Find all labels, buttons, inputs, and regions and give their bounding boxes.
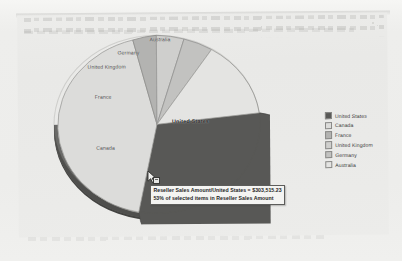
legend-item-germany[interactable]: Germany (325, 150, 389, 160)
legend-swatch-australia (325, 161, 332, 168)
legend-label-canada: Canada (335, 122, 353, 128)
slice-label-australia: Australia (149, 36, 170, 42)
slice-label-france: France (95, 94, 112, 100)
legend-swatch-canada (325, 122, 332, 129)
legend-label-united-kingdom: United Kingdom (335, 142, 373, 148)
tooltip-percent-line: 53% of selected items in Reseller Sales … (153, 195, 281, 202)
tooltip-value-line: Reseller Sales Amount/United States = $3… (153, 187, 281, 194)
drag-indicator-icon (153, 177, 160, 184)
legend-item-canada[interactable]: Canada (325, 120, 389, 130)
legend-swatch-united-kingdom (325, 141, 332, 148)
legend-label-united-states: United States (335, 112, 367, 118)
data-tooltip: Reseller Sales Amount/United States = $3… (150, 185, 285, 205)
legend-item-united-states[interactable]: United States (325, 111, 389, 121)
chart-legend[interactable]: United States Canada France United Kingd… (325, 111, 389, 170)
legend-item-united-kingdom[interactable]: United Kingdom (325, 140, 389, 150)
slice-label-germany: Germany (117, 49, 139, 55)
legend-label-france: France (335, 132, 352, 138)
legend-swatch-germany (325, 151, 332, 158)
legend-item-france[interactable]: France (325, 130, 389, 140)
legend-swatch-france (325, 132, 332, 139)
pie-slice-united-states[interactable] (138, 112, 271, 225)
legend-item-australia[interactable]: Australia (325, 160, 389, 170)
slice-label-united-states: United States (172, 118, 209, 124)
legend-label-germany: Germany (335, 152, 357, 158)
legend-label-australia: Australia (335, 161, 356, 167)
slice-label-united-kingdom: United Kingdom (88, 64, 126, 70)
screenshot-page: United States Canada France United Kingd… (0, 0, 402, 261)
legend-swatch-united-states (325, 112, 332, 119)
slice-label-canada: Canada (96, 145, 115, 151)
